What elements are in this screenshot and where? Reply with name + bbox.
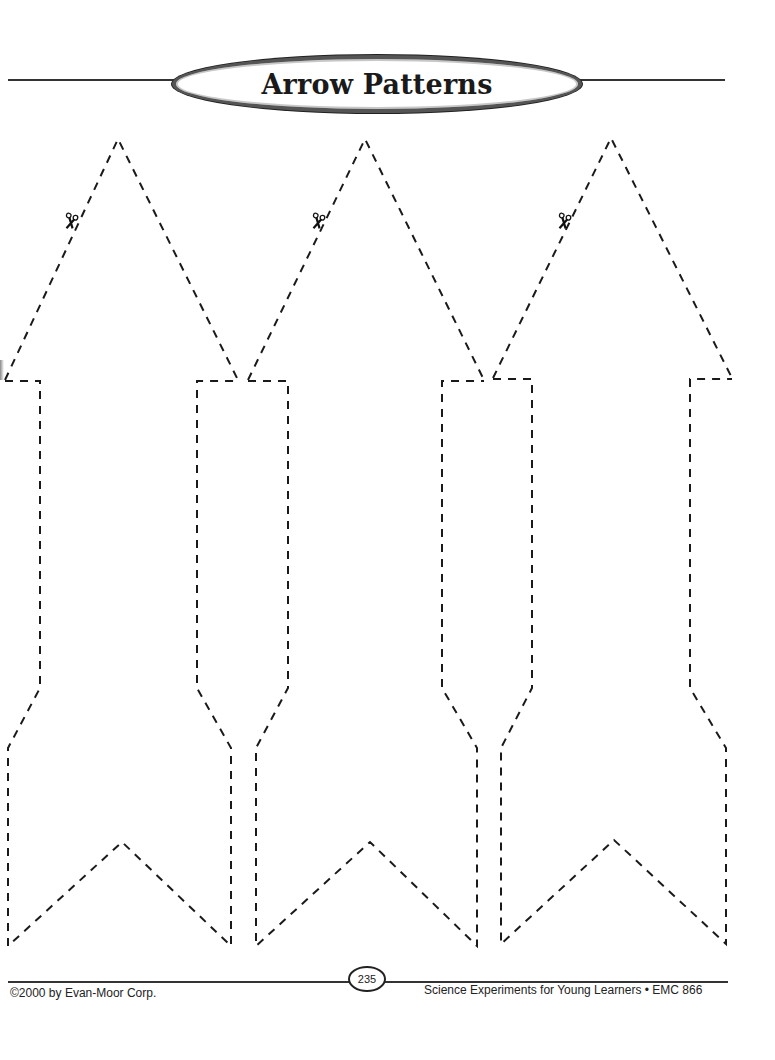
scissors-icon bbox=[557, 213, 571, 230]
copyright-text: ©2000 by Evan-Moor Corp. bbox=[10, 986, 156, 1000]
arrow-patterns bbox=[0, 0, 775, 1060]
worksheet-page: Arrow Patterns bbox=[0, 0, 775, 1060]
arrow-pattern-2 bbox=[248, 139, 484, 946]
publication-text: Science Experiments for Young Learners •… bbox=[424, 983, 702, 997]
arrow-pattern-3 bbox=[493, 138, 732, 944]
arrow-pattern-1 bbox=[5, 139, 238, 946]
page-number-badge: 235 bbox=[348, 966, 386, 992]
page-number: 235 bbox=[358, 973, 376, 985]
